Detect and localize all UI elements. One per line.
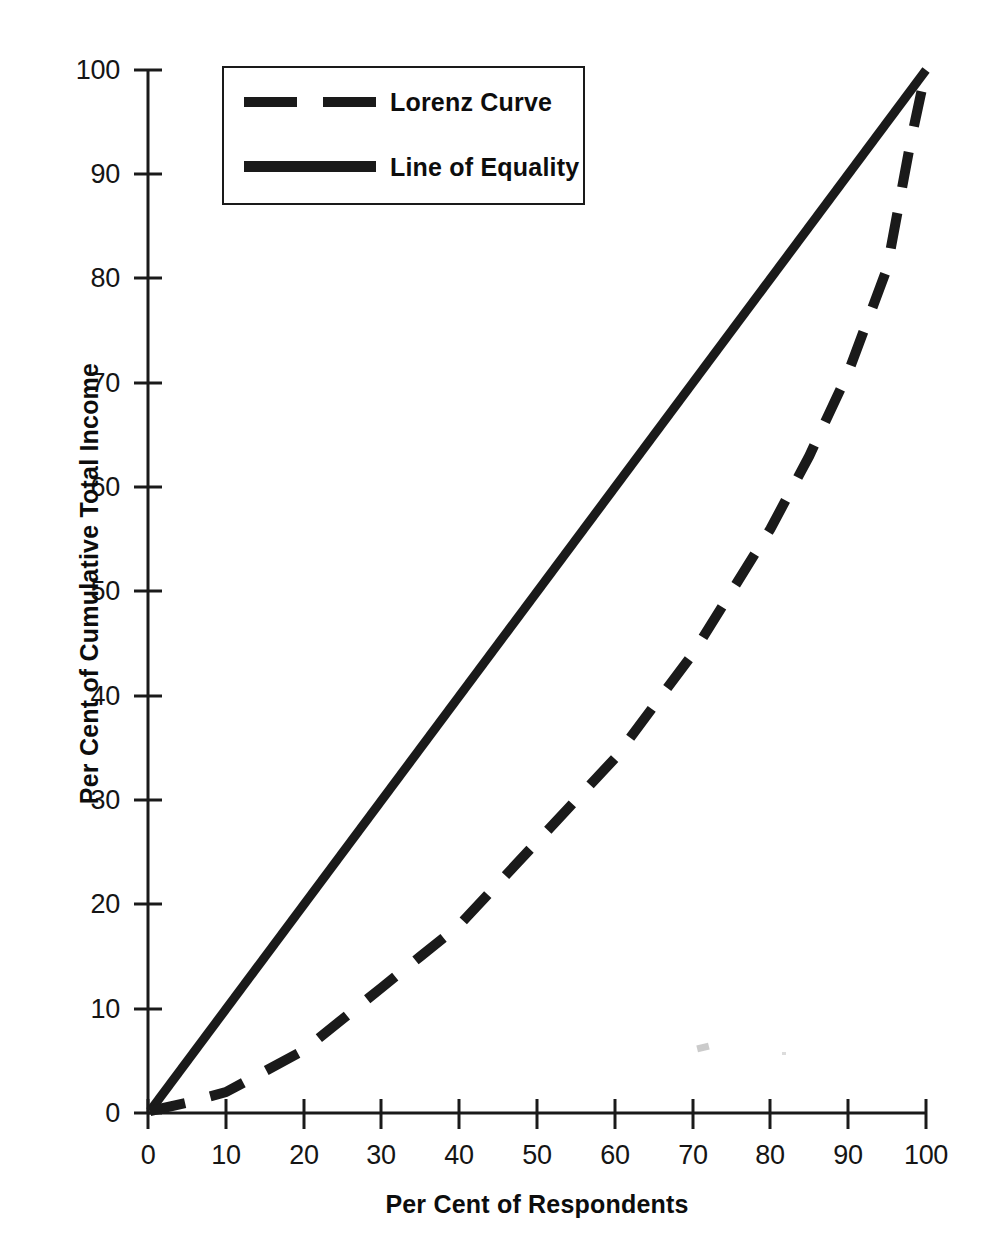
series-line-of-equality (150, 70, 926, 1111)
y-tick-label-0: 0 (40, 1098, 120, 1129)
legend-label-line-of-equality: Line of Equality (390, 153, 579, 182)
y-tick-label-10: 10 (40, 994, 120, 1025)
x-axis-title: Per Cent of Respondents (148, 1190, 926, 1219)
legend-label-lorenz-curve: Lorenz Curve (390, 88, 552, 117)
legend-box: Lorenz Curve Line of Equality (222, 66, 585, 205)
x-tick-label-80: 80 (725, 1140, 815, 1171)
lorenz-curve-figure: 100 90 80 70 60 50 40 30 20 10 0 0 10 20… (0, 0, 989, 1250)
y-tick-label-100: 100 (40, 55, 120, 86)
legend-entry-lorenz-curve: Lorenz Curve (224, 82, 583, 122)
x-tick-label-0: 0 (103, 1140, 193, 1171)
x-tick-label-90: 90 (803, 1140, 893, 1171)
x-tick-label-30: 30 (336, 1140, 426, 1171)
x-tick-label-60: 60 (570, 1140, 660, 1171)
x-tick-label-50: 50 (492, 1140, 582, 1171)
x-tick-label-100: 100 (881, 1140, 971, 1171)
dashed-line-swatch (244, 92, 376, 112)
legend-entry-line-of-equality: Line of Equality (224, 147, 583, 187)
solid-line-swatch (244, 157, 376, 177)
x-tick-label-10: 10 (181, 1140, 271, 1171)
y-axis-title: Per Cent of Cumulative Total Income (75, 184, 104, 984)
x-tick-label-40: 40 (414, 1140, 504, 1171)
